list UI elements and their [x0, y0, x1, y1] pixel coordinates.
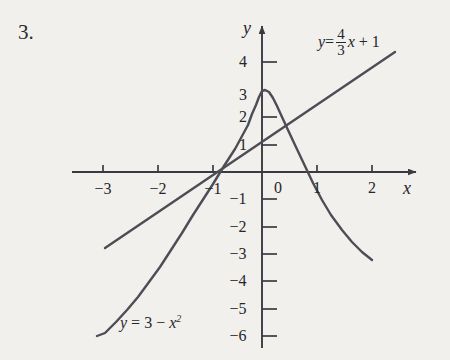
origin-label: 0	[270, 179, 286, 197]
y-tick-label-1: 1	[233, 136, 253, 154]
y-axis-label: y	[243, 18, 251, 39]
line-eq-variable: x	[348, 33, 355, 50]
x-tick-label-1: 1	[308, 179, 326, 197]
y-tick-label--2: −2	[223, 218, 253, 236]
y-tick-label--1: −1	[223, 190, 253, 208]
y-tick-label--3: −3	[223, 245, 253, 263]
line-eq-denominator: 3	[336, 42, 346, 58]
parabola-eq-lhs: y	[120, 314, 127, 331]
parabola-equation-label: y = 3 − x2	[120, 312, 181, 332]
line-equation-label: y=43x + 1	[318, 28, 380, 60]
x-tick-label--3: −3	[91, 180, 115, 198]
parabola-eq-exponent: 2	[176, 313, 181, 324]
y-tick-label-4: 4	[233, 53, 253, 71]
parabola-eq-equals: =	[131, 314, 140, 331]
parabola-eq-minus: −	[156, 314, 165, 331]
line-eq-numerator: 4	[336, 27, 346, 42]
x-tick-label-2: 2	[363, 179, 381, 197]
y-tick-label--4: −4	[223, 272, 253, 290]
x-axis-ticks	[103, 165, 372, 172]
y-tick-label--6: −6	[223, 327, 253, 345]
y-tick-label-2: 2	[233, 108, 253, 126]
x-axis-label: x	[403, 178, 411, 199]
line-eq-equals: =	[325, 33, 334, 50]
x-tick-label--1: −1	[201, 180, 225, 198]
line-eq-plus: +	[359, 33, 368, 50]
y-tick-label--5: −5	[223, 300, 253, 318]
parabola-eq-constant: 3	[144, 314, 152, 331]
y-tick-label-3: 3	[233, 86, 253, 104]
x-tick-label--2: −2	[146, 180, 170, 198]
line-eq-constant: 1	[372, 33, 380, 50]
line-eq-fraction: 43	[336, 27, 346, 59]
